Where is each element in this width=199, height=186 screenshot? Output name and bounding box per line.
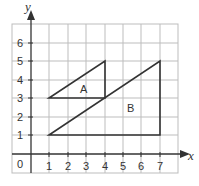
y-tick-label: 4 — [17, 74, 23, 86]
x-axis-label: x — [187, 148, 194, 163]
origin-label: 0 — [17, 158, 23, 170]
y-tick-label: 2 — [17, 111, 23, 123]
x-tick-label: 1 — [46, 160, 52, 172]
x-tick-label: 3 — [83, 160, 89, 172]
y-axis-label: y — [23, 0, 31, 14]
y-tick-label: 5 — [17, 55, 23, 67]
triangle-b-label: B — [127, 102, 134, 114]
y-tick-label: 3 — [17, 92, 23, 104]
x-tick-label: 4 — [102, 160, 108, 172]
y-tick-label: 6 — [17, 37, 23, 49]
x-tick-label: 2 — [65, 160, 71, 172]
triangle-a-label: A — [80, 83, 88, 95]
x-tick-label: 5 — [120, 160, 126, 172]
coordinate-diagram: x y 0 1 2 3 4 5 6 7 1 2 3 4 5 6 A B — [0, 0, 199, 186]
x-tick-label: 7 — [157, 160, 163, 172]
tick-marks — [28, 43, 160, 157]
x-tick-label: 6 — [138, 160, 144, 172]
y-tick-label: 1 — [17, 129, 23, 141]
